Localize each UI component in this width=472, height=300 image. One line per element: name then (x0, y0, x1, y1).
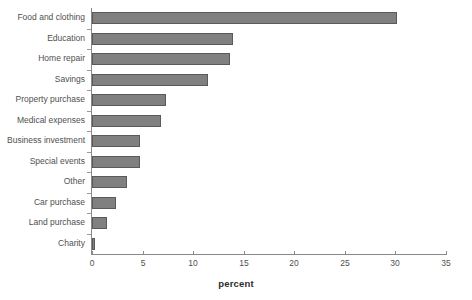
x-axis-tick-label: 25 (340, 258, 349, 269)
x-axis-tick-label: 0 (90, 258, 95, 269)
bar[interactable] (92, 74, 208, 86)
bar-row: Special events (92, 156, 446, 168)
x-axis-tick-label: 15 (239, 258, 248, 269)
x-axis-tick-label: 5 (141, 258, 146, 269)
y-axis-tick (87, 70, 91, 71)
category-label: Property purchase (16, 92, 85, 107)
category-label: Land purchase (29, 215, 85, 230)
bar[interactable] (92, 238, 95, 250)
bar-row: Other (92, 176, 446, 188)
bar[interactable] (92, 12, 397, 24)
bar[interactable] (92, 94, 166, 106)
x-axis-tick-label: 35 (441, 258, 450, 269)
x-axis-title: percent (0, 278, 472, 289)
x-axis-tick (244, 251, 245, 255)
y-axis-tick (87, 90, 91, 91)
bar[interactable] (92, 115, 161, 127)
x-axis-tick (92, 251, 93, 255)
bar[interactable] (92, 33, 233, 45)
bar[interactable] (92, 53, 230, 65)
bar-row: Land purchase (92, 217, 446, 229)
y-axis-tick (87, 49, 91, 50)
x-axis-tick (345, 251, 346, 255)
bar-chart: percent Food and clothingEducationHome r… (0, 0, 472, 300)
category-label: Medical expenses (17, 113, 85, 128)
x-axis-tick (446, 251, 447, 255)
bar-row: Charity (92, 238, 446, 250)
category-label: Savings (55, 72, 85, 87)
bar-row: Education (92, 33, 446, 45)
y-axis-tick (87, 131, 91, 132)
y-axis-tick (87, 172, 91, 173)
bar[interactable] (92, 197, 116, 209)
bar[interactable] (92, 135, 140, 147)
y-axis-tick (87, 193, 91, 194)
x-axis-tick (193, 251, 194, 255)
category-label: Food and clothing (17, 10, 85, 25)
x-axis-line (91, 254, 447, 255)
x-axis-tick (294, 251, 295, 255)
y-axis-tick (87, 152, 91, 153)
bar-row: Business investment (92, 135, 446, 147)
category-label: Education (47, 31, 85, 46)
x-axis-tick (395, 251, 396, 255)
y-axis-tick (87, 213, 91, 214)
x-axis-tick (143, 251, 144, 255)
y-axis-tick (87, 234, 91, 235)
bar-row: Home repair (92, 53, 446, 65)
category-label: Charity (58, 236, 85, 251)
category-label: Home repair (38, 51, 85, 66)
category-label: Special events (30, 154, 85, 169)
bar-row: Savings (92, 74, 446, 86)
bar[interactable] (92, 176, 127, 188)
category-label: Other (64, 174, 85, 189)
bar[interactable] (92, 156, 140, 168)
x-axis-tick-label: 30 (390, 258, 399, 269)
y-axis-tick (87, 111, 91, 112)
category-label: Business investment (7, 133, 85, 148)
bar-row: Car purchase (92, 197, 446, 209)
y-axis-tick (87, 29, 91, 30)
bar-row: Property purchase (92, 94, 446, 106)
bar-row: Food and clothing (92, 12, 446, 24)
bar[interactable] (92, 217, 107, 229)
category-label: Car purchase (34, 195, 85, 210)
bar-row: Medical expenses (92, 115, 446, 127)
x-axis-tick-label: 10 (188, 258, 197, 269)
x-axis-tick-label: 20 (289, 258, 298, 269)
